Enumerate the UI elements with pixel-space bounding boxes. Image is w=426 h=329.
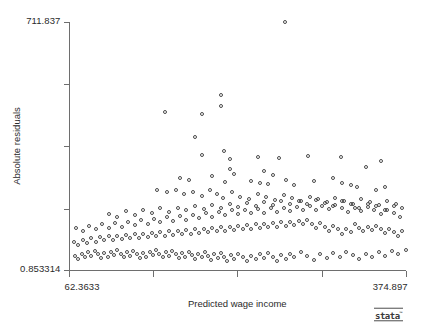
scatter-point (165, 190, 169, 194)
scatter-point (385, 199, 389, 203)
scatter-point (236, 212, 240, 216)
scatter-point (177, 256, 181, 260)
scatter-point (124, 209, 128, 213)
scatter-point (366, 225, 370, 229)
scatter-point (144, 255, 148, 259)
scatter-point (113, 221, 117, 225)
scatter-point (266, 182, 270, 186)
scatter-point (128, 254, 132, 258)
scatter-point (219, 104, 223, 108)
scatter-point (258, 226, 262, 230)
scatter-point (115, 215, 119, 219)
scatter-point (184, 228, 188, 232)
scatter-point (238, 195, 242, 199)
scatter-point (174, 188, 178, 192)
scatter-point (271, 221, 275, 225)
scatter-point (184, 208, 188, 212)
scatter-point (301, 208, 305, 212)
scatter-point (128, 236, 132, 240)
scatter-point (282, 206, 286, 210)
scatter-point (197, 231, 201, 235)
scatter-point (154, 234, 158, 238)
scatter-point (377, 250, 381, 254)
scatter-point (206, 230, 210, 234)
scatter-point (236, 205, 240, 209)
scatter-point (266, 251, 270, 255)
scatter-point (137, 236, 141, 240)
scatter-point (200, 194, 204, 198)
scatter-point (225, 259, 229, 263)
scatter-point (115, 234, 119, 238)
scatter-point (76, 257, 80, 261)
scatter-point (258, 252, 262, 256)
scatter-point (200, 255, 204, 259)
scatter-point (106, 255, 110, 259)
scatter-point (138, 256, 142, 260)
scatter-point (217, 210, 221, 214)
scatter-point (331, 176, 335, 180)
scatter-point (155, 188, 159, 192)
scatter-point (271, 173, 275, 177)
stata-logo-text: stata (375, 311, 400, 320)
scatter-point (283, 20, 287, 24)
scatter-point (308, 204, 312, 208)
scatter-point (249, 179, 253, 183)
scatter-point (208, 188, 212, 192)
scatter-point (379, 159, 383, 163)
scatter-point (364, 165, 368, 169)
scatter-point (243, 208, 247, 212)
scatter-point (331, 251, 335, 255)
scatter-point (193, 257, 197, 261)
scatter-point (232, 172, 236, 176)
scatter-point (284, 178, 288, 182)
scatter-point (279, 253, 283, 257)
scatter-point (163, 234, 167, 238)
scatter-point (266, 225, 270, 229)
scatter-point (76, 243, 80, 247)
scatter-point (359, 209, 363, 213)
scatter-point (241, 255, 245, 259)
scatter-point (204, 211, 208, 215)
scatter-point (301, 222, 305, 226)
scatter-point (200, 112, 204, 116)
scatter-point (299, 250, 303, 254)
scatter-point (379, 212, 383, 216)
scatter-point (215, 229, 219, 233)
scatter-point (305, 254, 309, 258)
scatter-point (314, 226, 318, 230)
scatter-point (236, 252, 240, 256)
scatter-point (74, 226, 78, 230)
scatter-point (256, 155, 260, 159)
stata-scatter-plot-figure: 711.8370.853314 62.3633374.897 Absolute … (0, 0, 426, 329)
scatter-point (171, 219, 175, 223)
scatter-point (139, 218, 143, 222)
scatter-point (254, 257, 258, 261)
scatter-point (146, 222, 150, 226)
scatter-point (284, 257, 288, 261)
scatter-point (392, 211, 396, 215)
scatter-point (279, 199, 283, 203)
scatter-point (318, 252, 322, 256)
scatter-point (374, 224, 378, 228)
scatter-point (383, 231, 387, 235)
scatter-point (89, 254, 93, 258)
scatter-point (396, 234, 400, 238)
scatter-point (249, 254, 253, 258)
scatter-point (150, 211, 154, 215)
scatter-point (325, 256, 329, 260)
scatter-point (344, 227, 348, 231)
scatter-point (81, 238, 85, 242)
scatter-point (333, 196, 337, 200)
scatter-point (256, 192, 260, 196)
scatter-point (222, 149, 226, 153)
scatter-point (383, 254, 387, 258)
scatter-point (351, 253, 355, 257)
scatter-point (349, 230, 353, 234)
scatter-point (222, 255, 226, 259)
scatter-point (161, 255, 165, 259)
scatter-point (163, 110, 167, 114)
scatter-point (308, 195, 312, 199)
scatter-point (245, 201, 249, 205)
scatter-point (200, 153, 204, 157)
scatter-point (277, 156, 281, 160)
